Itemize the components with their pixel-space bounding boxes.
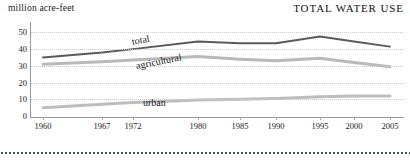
y-tick-50: 50	[1, 27, 27, 37]
chart-title: TOTAL WATER USE	[293, 2, 404, 14]
bottom-dotted-rule	[0, 152, 410, 154]
x-tick-1990: 1990	[268, 121, 285, 131]
plot-area	[31, 24, 403, 116]
x-tick-mark-1995	[320, 117, 321, 120]
y-tick-40: 40	[1, 44, 27, 54]
x-tick-mark-1990	[276, 117, 277, 120]
y-tick-30: 30	[1, 61, 27, 71]
gridline-40	[31, 49, 403, 51]
y-axis-tick-labels: 01020304050	[0, 0, 27, 161]
series-line-total	[43, 37, 390, 58]
series-lines	[31, 24, 403, 116]
x-tick-1980: 1980	[190, 121, 207, 131]
x-tick-1972: 1972	[125, 121, 142, 131]
x-tick-1967: 1967	[94, 121, 111, 131]
y-tick-10: 10	[1, 94, 27, 104]
x-tick-mark-1972	[133, 117, 134, 120]
x-tick-mark-2005	[390, 117, 391, 120]
gridline-10	[31, 99, 403, 101]
y-tick-0: 0	[1, 111, 27, 121]
x-tick-1995: 1995	[312, 121, 329, 131]
series-label-urban: urban	[143, 97, 166, 108]
chart-container: million acre-feet TOTAL WATER USE 010203…	[0, 0, 410, 161]
gridline-30	[31, 66, 403, 68]
series-line-urban	[43, 96, 390, 108]
x-tick-mark-1960	[43, 117, 44, 120]
x-tick-2005: 2005	[382, 121, 399, 131]
x-tick-2000: 2000	[346, 121, 363, 131]
x-tick-1985: 1985	[232, 121, 249, 131]
x-tick-mark-1980	[198, 117, 199, 120]
gridline-20	[31, 83, 403, 85]
gridline-50	[31, 32, 403, 34]
x-tick-mark-1985	[240, 117, 241, 120]
y-tick-20: 20	[1, 78, 27, 88]
x-tick-mark-2000	[354, 117, 355, 120]
x-tick-1960: 1960	[35, 121, 52, 131]
x-tick-mark-1967	[102, 117, 103, 120]
x-axis-line	[30, 117, 404, 118]
